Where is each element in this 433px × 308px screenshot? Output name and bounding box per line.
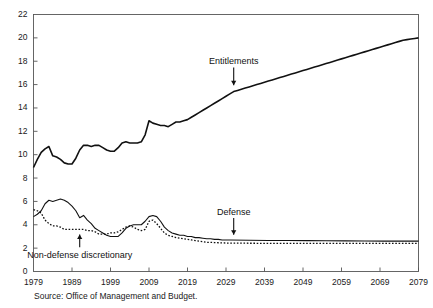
y-tick-4: 4 <box>6 220 28 229</box>
y-tick-2: 2 <box>6 244 28 253</box>
y-tick-12: 12 <box>6 127 28 136</box>
x-tick-2009: 2009 <box>129 278 169 287</box>
x-tick-1989: 1989 <box>52 278 92 287</box>
y-tick-20: 20 <box>6 33 28 42</box>
y-tick-8: 8 <box>6 174 28 183</box>
y-tick-6: 6 <box>6 197 28 206</box>
arrow-head <box>77 235 82 240</box>
y-tick-22: 22 <box>6 10 28 19</box>
x-tick-2019: 2019 <box>168 278 208 287</box>
x-tick-2059: 2059 <box>322 278 362 287</box>
x-tick-2069: 2069 <box>360 278 400 287</box>
x-tick-1979: 1979 <box>14 278 54 287</box>
annotation-defense: Defense <box>217 208 251 217</box>
arrow-head <box>231 230 236 235</box>
source-note: Source: Office of Management and Budget. <box>34 292 197 301</box>
x-tick-1999: 1999 <box>91 278 131 287</box>
x-tick-2039: 2039 <box>245 278 285 287</box>
annotation-entitlements: Entitlements <box>209 57 259 66</box>
y-tick-16: 16 <box>6 80 28 89</box>
series-line-defense <box>34 199 419 241</box>
arrow-head <box>231 81 236 86</box>
annotation-non-defense-discretionary: Non-defense discretionary <box>27 251 132 260</box>
y-tick-18: 18 <box>6 57 28 66</box>
x-tick-2049: 2049 <box>283 278 323 287</box>
x-tick-2079: 2079 <box>399 278 433 287</box>
y-tick-0: 0 <box>6 267 28 276</box>
y-tick-14: 14 <box>6 103 28 112</box>
y-tick-10: 10 <box>6 150 28 159</box>
x-tick-2029: 2029 <box>206 278 246 287</box>
